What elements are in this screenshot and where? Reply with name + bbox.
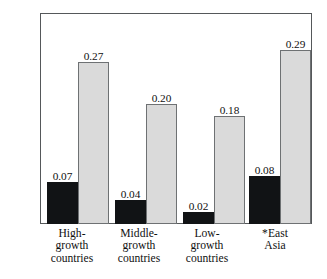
bar-dark[interactable]: 0.02: [183, 212, 214, 224]
bar-value-label: 0.20: [152, 92, 171, 104]
bar-light[interactable]: 0.20: [146, 104, 177, 224]
bar-value-label: 0.02: [189, 200, 208, 212]
x-axis-category-line: growth: [37, 240, 107, 252]
bar-value-label: 0.29: [286, 38, 305, 50]
bar-group: 0.08 0.29: [249, 14, 311, 224]
bar-light[interactable]: 0.29: [280, 50, 311, 224]
bars-layer: 0.07 0.27 0.04 0.20 0.02 0.18: [41, 14, 311, 224]
bar-chart: 0.35 0.30 0.25 0.20 0.15 0.10 0.05 0.00 …: [0, 0, 327, 279]
x-axis-category-label: Low- growth countries: [172, 228, 242, 265]
bar-group: 0.04 0.20: [115, 14, 177, 224]
x-axis-category-label: High- growth countries: [37, 228, 107, 265]
x-axis-category-line: countries: [172, 253, 242, 265]
bar-value-label: 0.27: [84, 50, 103, 62]
x-axis-category-line: countries: [103, 253, 175, 265]
bar-light[interactable]: 0.27: [78, 62, 109, 224]
x-axis-category-label: Middle- growth countries: [103, 228, 175, 265]
x-axis-category-line: growth: [103, 240, 175, 252]
bar-value-label: 0.08: [255, 164, 274, 176]
bar-light[interactable]: 0.18: [214, 116, 245, 224]
bar-value-label: 0.04: [121, 188, 140, 200]
x-axis-category-label: *East Asia: [244, 228, 306, 253]
x-axis-category-line: Asia: [244, 240, 306, 252]
bar-dark[interactable]: 0.08: [249, 176, 280, 224]
x-axis-category-line: countries: [37, 253, 107, 265]
bar-dark[interactable]: 0.07: [47, 182, 78, 224]
bar-group: 0.07 0.27: [47, 14, 109, 224]
bar-value-label: 0.07: [53, 170, 72, 182]
bar-dark[interactable]: 0.04: [115, 200, 146, 224]
bar-value-label: 0.18: [220, 104, 239, 116]
x-axis-category-line: growth: [172, 240, 242, 252]
bar-group: 0.02 0.18: [183, 14, 245, 224]
